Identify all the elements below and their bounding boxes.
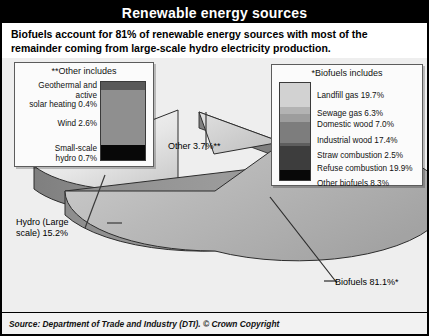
other-bar-segment-geothermal bbox=[101, 82, 145, 90]
other-bar-segment-wind bbox=[101, 90, 145, 145]
biofuels-item-label-straw-combustion: Straw combustion 2.5% bbox=[317, 151, 403, 160]
pie-label-biofuels: Biofuels 81.1%* bbox=[335, 277, 399, 288]
biofuels-item-label-refuse-combustion: Refuse combustion 19.9% bbox=[317, 164, 413, 173]
biofuels-includes-label-column: Landfill gas 19.7% Sewage gas 6.3% Domes… bbox=[317, 80, 422, 185]
standfirst-text: Biofuels account for 81% of renewable en… bbox=[2, 23, 427, 60]
biofuels-includes-callout: *Biofuels includes Landfill gas 19.7% Se… bbox=[271, 64, 423, 186]
other-item-label-small-hydro: Small-scale hydro 0.7% bbox=[55, 144, 97, 163]
source-footer: Source: Department of Trade and Industry… bbox=[2, 312, 427, 334]
page-title: Renewable energy sources bbox=[122, 5, 307, 21]
source-text: Source: Department of Trade and Industry… bbox=[9, 319, 279, 329]
pie-label-other: Other 3.7%** bbox=[168, 141, 221, 152]
other-includes-title: **Other includes bbox=[15, 63, 153, 77]
biofuels-bar-segment-sewage-gas bbox=[280, 107, 310, 115]
other-bar-segment-small-hydro bbox=[101, 145, 145, 160]
biofuels-includes-title: *Biofuels includes bbox=[272, 65, 422, 79]
biofuels-includes-stacked-bar bbox=[279, 82, 311, 181]
biofuels-item-label-domestic-wood: Domestic wood 7.0% bbox=[317, 120, 394, 129]
other-includes-callout: **Other includes Geothermal and active s… bbox=[14, 62, 154, 167]
other-item-label-geothermal: Geothermal and active solar heating 0.4% bbox=[15, 81, 97, 110]
biofuels-bar-segment-refuse-combustion bbox=[280, 146, 310, 170]
other-includes-label-column: Geothermal and active solar heating 0.4%… bbox=[15, 79, 100, 166]
biofuels-bar-segment-other-biofuels bbox=[280, 170, 310, 180]
biofuels-bar-segment-domestic-wood bbox=[280, 114, 310, 122]
figure-title-bar: Renewable energy sources bbox=[2, 2, 427, 23]
pie-label-hydro: Hydro (Large scale) 15.2% bbox=[16, 217, 69, 239]
other-item-label-wind: Wind 2.6% bbox=[57, 119, 97, 129]
biofuels-bar-segment-industrial-wood bbox=[280, 122, 310, 143]
biofuels-item-label-other-biofuels: Other biofuels 8.3% bbox=[317, 179, 389, 188]
biofuels-item-label-industrial-wood: Industrial wood 17.4% bbox=[317, 136, 398, 145]
other-includes-stacked-bar bbox=[100, 81, 146, 161]
chart-plot-area: Other 3.7%** Hydro (Large scale) 15.2% B… bbox=[2, 58, 427, 316]
biofuels-item-label-landfill-gas: Landfill gas 19.7% bbox=[317, 91, 384, 100]
renewable-energy-figure: Renewable energy sources Biofuels accoun… bbox=[0, 0, 429, 336]
biofuels-bar-segment-landfill-gas bbox=[280, 83, 310, 107]
biofuels-item-label-sewage-gas: Sewage gas 6.3% bbox=[317, 109, 383, 118]
